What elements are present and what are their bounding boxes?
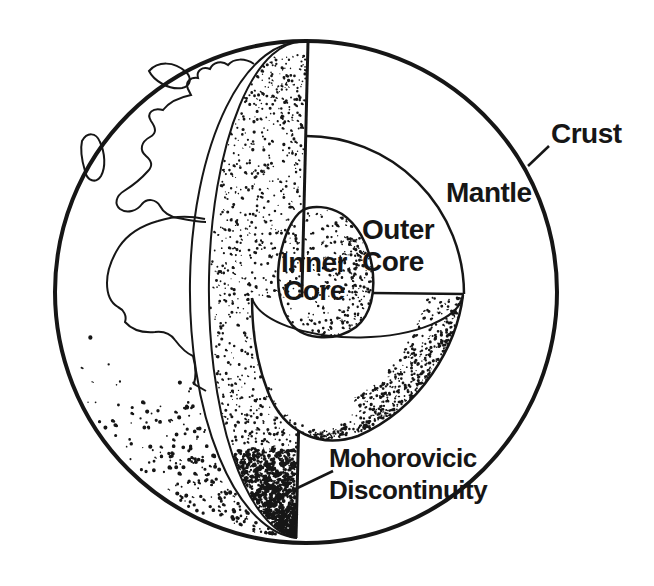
continent-outlines — [81, 60, 254, 391]
mantle-label: Mantle — [446, 177, 532, 208]
continent-outline-north — [117, 60, 254, 222]
inner-core-label-line1: Inner — [281, 247, 348, 278]
outer-core-bowl — [252, 295, 463, 442]
earth-layers-diagram: Crust Mantle Outer Core Inner Core Mohor… — [0, 0, 654, 586]
moho-label-line1: Mohorovicic — [329, 443, 477, 473]
crust-leader-line — [528, 146, 549, 166]
equatorial-cut-line — [372, 293, 464, 294]
crust-label: Crust — [551, 118, 622, 149]
outer-core-label-line2: Core — [362, 246, 424, 277]
inner-core-label-line2: Core — [283, 275, 345, 306]
outer-core-label-line1: Outer — [362, 214, 435, 245]
moho-label-line2: Discontinuity — [329, 475, 488, 505]
earth-cutaway-illustration: Crust Mantle Outer Core Inner Core Mohor… — [0, 0, 654, 586]
island-outline-top — [149, 64, 190, 89]
